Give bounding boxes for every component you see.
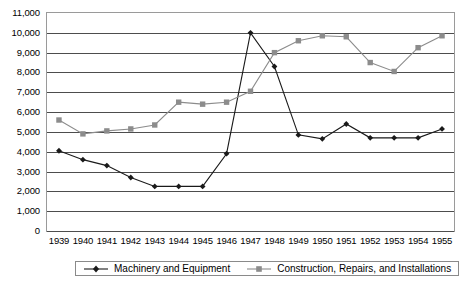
series-machinery — [56, 30, 445, 189]
data-point-square — [104, 128, 109, 133]
data-point-square — [272, 50, 277, 55]
x-tick-label: 1950 — [312, 235, 332, 246]
data-point-square — [224, 99, 229, 104]
series-construction — [56, 33, 444, 137]
chart-legend: Machinery and Equipment Construction, Re… — [75, 261, 459, 276]
legend-item-construction: Construction, Repairs, and Installations — [246, 263, 451, 274]
x-tick-label: 1951 — [336, 235, 356, 246]
data-point-square — [56, 117, 61, 122]
gridline — [47, 231, 454, 232]
x-axis: 1939194019411942194319441945194619471948… — [46, 235, 455, 251]
x-tick-label: 1944 — [169, 235, 189, 246]
y-tick-label: 11,000 — [12, 8, 40, 18]
legend-item-machinery: Machinery and Equipment — [83, 263, 230, 274]
y-tick-label: 2,000 — [17, 186, 40, 196]
data-point-diamond — [391, 135, 397, 141]
x-tick-label: 1949 — [288, 235, 308, 246]
data-point-diamond — [128, 175, 134, 181]
y-tick-label: 4,000 — [17, 147, 40, 157]
data-point-diamond — [176, 184, 182, 190]
y-tick-label: 6,000 — [17, 107, 40, 117]
x-tick-label: 1947 — [240, 235, 260, 246]
x-tick-label: 1940 — [73, 235, 93, 246]
data-point-diamond — [343, 121, 349, 127]
y-tick-label: 9,000 — [17, 48, 40, 58]
data-point-square — [344, 34, 349, 39]
series-line — [59, 36, 442, 134]
x-tick-label: 1943 — [145, 235, 165, 246]
data-point-diamond — [295, 132, 301, 138]
data-point-square — [248, 89, 253, 94]
data-point-square — [320, 33, 325, 38]
data-point-diamond — [56, 148, 62, 154]
x-tick-label: 1948 — [264, 235, 284, 246]
data-point-square — [391, 69, 396, 74]
x-tick-label: 1939 — [49, 235, 69, 246]
data-point-square — [128, 126, 133, 131]
x-tick-label: 1945 — [192, 235, 212, 246]
data-point-square — [439, 33, 444, 38]
data-point-diamond — [367, 135, 373, 141]
series-line — [59, 33, 442, 187]
x-tick-label: 1942 — [121, 235, 141, 246]
series-layer — [47, 13, 454, 231]
data-point-square — [80, 131, 85, 136]
line-chart: 01,0002,0003,0004,0005,0006,0007,0008,00… — [0, 0, 463, 285]
data-point-square — [415, 45, 420, 50]
data-point-square — [152, 122, 157, 127]
legend-marker-square-icon — [246, 264, 272, 274]
y-tick-label: 3,000 — [17, 167, 40, 177]
data-point-diamond — [439, 126, 445, 132]
x-tick-label: 1941 — [97, 235, 117, 246]
x-tick-label: 1952 — [360, 235, 380, 246]
y-tick-label: 7,000 — [17, 87, 40, 97]
data-point-square — [368, 60, 373, 65]
legend-label-machinery: Machinery and Equipment — [114, 263, 230, 274]
y-tick-label: 10,000 — [12, 28, 40, 38]
data-point-diamond — [80, 157, 86, 163]
data-point-diamond — [104, 163, 110, 169]
data-point-square — [176, 99, 181, 104]
data-point-square — [296, 38, 301, 43]
plot-area — [46, 12, 455, 232]
y-tick-label: 8,000 — [17, 67, 40, 77]
y-axis: 01,0002,0003,0004,0005,0006,0007,0008,00… — [0, 0, 44, 240]
y-tick-label: 5,000 — [17, 127, 40, 137]
x-tick-label: 1954 — [408, 235, 428, 246]
x-tick-label: 1955 — [432, 235, 452, 246]
legend-label-construction: Construction, Repairs, and Installations — [277, 263, 451, 274]
data-point-square — [200, 101, 205, 106]
y-tick-label: 0 — [35, 226, 40, 236]
x-tick-label: 1946 — [216, 235, 236, 246]
data-point-diamond — [415, 135, 421, 141]
data-point-diamond — [152, 184, 158, 190]
data-point-diamond — [319, 136, 325, 142]
y-tick-label: 1,000 — [17, 206, 40, 216]
x-tick-label: 1953 — [384, 235, 404, 246]
legend-marker-diamond-icon — [83, 264, 109, 274]
